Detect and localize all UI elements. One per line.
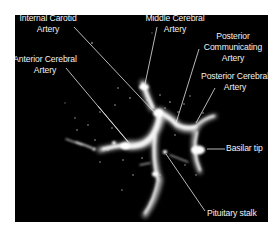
- leader-line-aca-2: [98, 106, 131, 145]
- label-anterior-cerebral-artery: Anterior Cerebral Artery: [15, 54, 77, 76]
- label-line: Anterior Cerebral: [15, 54, 77, 65]
- leader-line-pcom: [176, 49, 199, 123]
- label-line: Artery: [16, 24, 80, 35]
- label-line: Posterior Cerebral: [199, 71, 268, 82]
- label-line: Pituitary stalk: [207, 208, 257, 219]
- label-line: Internal Carotid: [16, 15, 80, 24]
- label-basilar-tip: Basilar tip: [226, 143, 263, 154]
- label-line: Communicating: [199, 42, 267, 53]
- label-line: Basilar tip: [226, 143, 263, 154]
- label-posterior-cerebral-artery: Posterior Cerebral Artery: [199, 71, 268, 93]
- label-line: Artery: [199, 82, 268, 93]
- speckle-noise: [64, 32, 204, 191]
- ultrasound-image: Internal Carotid Artery Middle Cerebral …: [15, 15, 268, 222]
- label-line: Artery: [143, 24, 207, 35]
- leader-line-pituitary: [166, 154, 205, 211]
- label-posterior-communicating-artery: Posterior Communicating Artery: [199, 31, 267, 64]
- leader-line-ica: [74, 27, 155, 113]
- label-pituitary-stalk: Pituitary stalk: [207, 208, 257, 219]
- label-line: Posterior: [199, 31, 267, 42]
- leader-line-mca: [145, 27, 157, 84]
- label-line: Artery: [15, 65, 77, 76]
- label-middle-cerebral-artery: Middle Cerebral Artery: [143, 15, 207, 35]
- label-line: Artery: [199, 53, 267, 64]
- label-line: Middle Cerebral: [143, 15, 207, 24]
- label-internal-carotid-artery: Internal Carotid Artery: [16, 15, 80, 35]
